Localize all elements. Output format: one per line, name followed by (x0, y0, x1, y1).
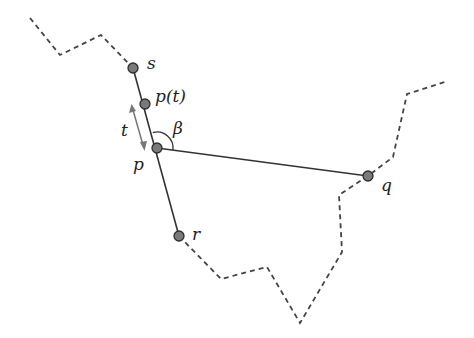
label-q: q (381, 175, 392, 195)
label-s: s (147, 53, 156, 73)
label-r: r (192, 224, 201, 244)
dashed-boundary-upper (30, 18, 133, 68)
point-r (174, 231, 184, 241)
diagram-canvas: s p(t) t β p q r (0, 0, 474, 338)
segment-p-q (157, 148, 368, 176)
point-s (128, 63, 138, 73)
point-p-t (140, 99, 150, 109)
point-p (152, 143, 162, 153)
label-p: p (133, 154, 144, 174)
dashed-boundary-lower (179, 82, 445, 323)
point-q (363, 171, 373, 181)
label-beta: β (172, 118, 183, 138)
label-t: t (121, 120, 128, 140)
label-p-t: p(t) (155, 86, 186, 106)
